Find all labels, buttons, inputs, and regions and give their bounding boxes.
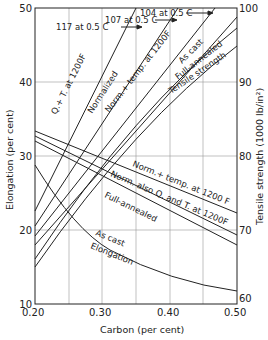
svg-text:90: 90 [239,77,252,88]
svg-text:50: 50 [19,3,32,14]
y-ticks: 10 20 30 40 50 [19,3,32,310]
svg-text:80: 80 [239,151,252,162]
annotation-117: 117 at 0.5 C [56,22,108,32]
svg-text:0.50: 0.50 [224,307,246,318]
svg-text:70: 70 [239,225,252,236]
y2-axis-label: Tensile strength (1000 lb/in²) [254,88,265,226]
svg-text:0.40: 0.40 [157,307,179,318]
x-ticks: 0.20 0.30 0.40 0.50 [22,307,246,318]
annotation-104: 104 at 0.5 C [140,8,192,18]
svg-text:40: 40 [19,77,32,88]
svg-text:10: 10 [19,299,32,310]
svg-text:100: 100 [239,3,258,14]
label-qt: Q.+ T. at 1200F [49,52,88,116]
x-axis-label: Carbon (per cent) [100,324,184,335]
carbon-steel-chart: 117 at 0.5 C 107 at 0.5 C 104 at 0.5 C Q… [0,0,268,340]
svg-text:60: 60 [239,293,252,304]
y-axis-label: Elongation (per cent) [4,109,15,210]
svg-text:20: 20 [19,225,32,236]
svg-text:30: 30 [19,151,32,162]
label-e-elongation: Elongation [89,241,135,267]
svg-text:0.30: 0.30 [89,307,111,318]
